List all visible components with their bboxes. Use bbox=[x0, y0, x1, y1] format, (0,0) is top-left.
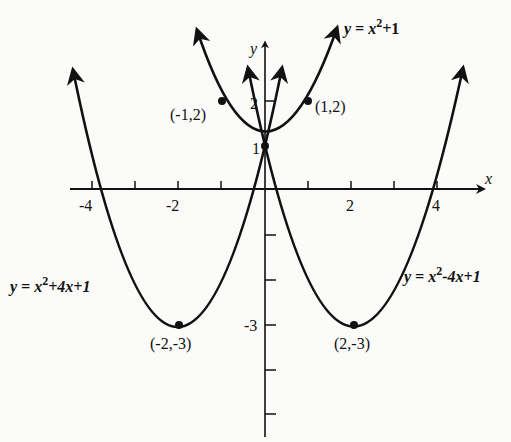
curve-x2-plus-1 bbox=[197, 28, 337, 132]
tick-label-y-1: 1 bbox=[252, 140, 260, 157]
curve-x2-minus-4x-plus-1 bbox=[248, 68, 463, 327]
equation-label-left: y = x2+4x+1 bbox=[8, 274, 90, 296]
tick-label-x-neg4: -4 bbox=[79, 197, 92, 214]
equation-label-right: y = x2-4x+1 bbox=[402, 264, 481, 286]
parabola-chart: x y -4 -2 2 4 2 1 -3 (-1,2) (1,2) (-2,-3… bbox=[0, 0, 511, 442]
point-0-1 bbox=[261, 142, 269, 150]
point-neg2-neg3 bbox=[175, 321, 183, 329]
tick-label-x-neg2: -2 bbox=[166, 197, 179, 214]
point-1-2 bbox=[304, 97, 312, 105]
label-point-1-2: (1,2) bbox=[315, 98, 346, 116]
label-point-2-neg3: (2,-3) bbox=[334, 335, 370, 353]
tick-label-y-neg3: -3 bbox=[244, 317, 257, 334]
tick-label-x-2: 2 bbox=[346, 197, 354, 214]
label-point-neg2-neg3: (-2,-3) bbox=[150, 335, 191, 353]
tick-label-y-2: 2 bbox=[250, 95, 258, 112]
x-axis-label: x bbox=[484, 170, 492, 187]
tick-label-x-4: 4 bbox=[432, 197, 440, 214]
point-neg1-2 bbox=[218, 97, 226, 105]
y-axis-label: y bbox=[248, 40, 258, 58]
point-2-neg3 bbox=[350, 321, 358, 329]
equation-label-center: y = x2+1 bbox=[342, 16, 399, 38]
label-point-neg1-2: (-1,2) bbox=[170, 106, 206, 124]
